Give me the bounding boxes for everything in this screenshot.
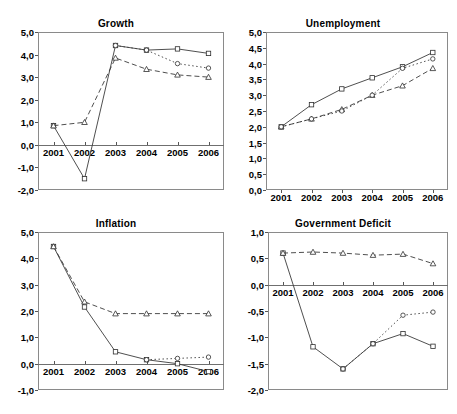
data-point-government-deficit-series-3-circle-dotted-3 [431,310,435,314]
chart-title-growth: Growth [4,18,228,29]
series-layer-unemployment [266,32,448,190]
data-point-unemployment-series-2-triangle-dashed-5 [430,66,436,71]
series-line-growth-series-1-square-solid [54,46,209,179]
y-tick-label-government-deficit-0: -2,0 [232,385,264,396]
data-point-inflation-series-1-square-solid-1 [82,305,86,309]
data-point-government-deficit-series-1-square-solid-5 [431,344,435,348]
data-point-growth-series-3-circle-dotted-3 [206,66,210,70]
y-tick-label-unemployment-4: 2,0 [232,121,262,132]
y-tick-mark-unemployment-0 [263,190,266,191]
y-tick-label-growth-7: 5,0 [4,27,34,38]
x-tick-mark-unemployment-3 [372,190,373,193]
data-point-unemployment-series-1-square-solid-1 [309,103,313,107]
data-point-inflation-series-3-circle-dotted-1 [175,356,179,360]
data-point-unemployment-series-2-triangle-dashed-4 [400,83,406,88]
y-tick-label-unemployment-8: 4,0 [232,58,262,69]
y-tick-label-growth-2: 0,0 [4,139,34,150]
data-point-government-deficit-series-2-triangle-dashed-5 [430,261,436,266]
data-point-unemployment-series-3-circle-dotted-4 [400,66,404,70]
y-tick-label-growth-0: -2,0 [4,185,34,196]
data-point-unemployment-series-3-circle-dotted-2 [340,109,344,113]
data-point-government-deficit-series-3-circle-dotted-2 [401,313,405,317]
chart-title-inflation: Inflation [4,218,228,229]
x-tick-label-unemployment-4: 2005 [392,192,413,203]
series-line-growth-series-2-triangle-dashed [54,58,209,126]
y-tick-label-unemployment-0: 0,0 [232,185,262,196]
x-tick-label-unemployment-0: 2001 [271,192,292,203]
data-point-unemployment-series-3-circle-dotted-1 [309,117,313,121]
y-tick-label-growth-1: -1,0 [4,162,34,173]
chart-panel-inflation: Inflation -1,00,01,02,03,04,05,020012002… [4,218,228,400]
data-point-inflation-series-3-circle-dotted-2 [206,355,210,359]
data-point-government-deficit-series-1-square-solid-1 [311,345,315,349]
plot-area-inflation [38,232,224,390]
series-line-government-deficit-series-1-square-solid [283,253,433,369]
y-tick-label-government-deficit-5: 0,5 [232,253,264,264]
x-tick-mark-unemployment-2 [342,190,343,193]
y-tick-label-growth-4: 2,0 [4,94,34,105]
x-tick-label-unemployment-5: 2006 [422,192,443,203]
data-point-government-deficit-series-3-circle-dotted-1 [371,342,375,346]
x-tick-mark-unemployment-0 [281,190,282,193]
data-point-inflation-series-1-square-solid-2 [113,350,117,354]
data-point-inflation-series-3-circle-dotted-0 [144,358,148,362]
chart-title-unemployment: Unemployment [232,18,454,29]
chart-title-government-deficit: Government Deficit [232,218,454,229]
data-point-unemployment-series-1-square-solid-2 [340,87,344,91]
plot-area-unemployment [266,32,448,190]
y-tick-label-inflation-1: 0,0 [4,358,34,369]
y-tick-label-government-deficit-6: 1,0 [232,227,264,238]
data-point-growth-series-2-triangle-dashed-2 [113,55,119,60]
data-point-government-deficit-series-1-square-solid-4 [401,331,405,335]
x-tick-label-unemployment-1: 2002 [301,192,322,203]
y-tick-mark-inflation-0 [35,390,38,391]
series-layer-inflation [38,232,224,390]
data-point-inflation-series-1-square-solid-4 [175,362,179,366]
y-tick-mark-growth-0 [35,190,38,191]
chart-panel-government-deficit: Government Deficit -2,0-1,5-1,0-0,50,00,… [232,218,454,400]
y-tick-mark-government-deficit-0 [265,390,268,391]
chart-panel-unemployment: Unemployment 0,00,51,01,52,02,53,03,54,0… [232,18,454,200]
data-point-growth-series-2-triangle-dashed-1 [82,120,88,125]
y-tick-label-unemployment-2: 1,0 [232,153,262,164]
data-point-growth-series-3-circle-dotted-1 [144,48,148,52]
data-point-unemployment-series-3-circle-dotted-5 [431,57,435,61]
x-tick-label-unemployment-2: 2003 [331,192,352,203]
data-point-government-deficit-series-3-circle-dotted-0 [341,367,345,371]
data-point-growth-series-3-circle-dotted-0 [113,43,117,47]
y-tick-label-unemployment-5: 2,5 [232,106,262,117]
data-point-growth-series-2-triangle-dashed-3 [144,66,150,71]
y-tick-label-government-deficit-4: 0,0 [232,279,264,290]
series-line-growth-series-3-circle-dotted [116,46,209,69]
data-point-growth-series-1-square-solid-5 [206,51,210,55]
data-point-growth-series-1-square-solid-4 [175,47,179,51]
y-tick-label-growth-6: 4,0 [4,49,34,60]
plot-area-growth [38,32,224,190]
y-tick-label-inflation-5: 4,0 [4,253,34,264]
series-line-unemployment-series-1-square-solid [281,53,433,127]
y-tick-label-government-deficit-1: -1,5 [232,358,264,369]
y-tick-label-inflation-2: 1,0 [4,332,34,343]
figure-sheet: Growth -2,0-1,00,01,02,03,04,05,02001200… [0,0,457,414]
data-point-unemployment-series-3-circle-dotted-0 [279,125,283,129]
data-point-growth-series-3-circle-dotted-2 [175,61,179,65]
y-tick-label-government-deficit-2: -1,0 [232,332,264,343]
series-line-unemployment-series-3-circle-dotted [281,59,433,127]
series-line-inflation-series-2-triangle-dashed [54,247,209,314]
data-point-unemployment-series-3-circle-dotted-3 [370,93,374,97]
data-point-unemployment-series-1-square-solid-3 [370,76,374,80]
y-tick-label-unemployment-6: 3,0 [232,90,262,101]
series-layer-growth [38,32,224,190]
data-point-inflation-series-1-square-solid-5 [206,369,210,373]
data-point-growth-series-1-square-solid-1 [82,177,86,181]
y-tick-label-unemployment-3: 1,5 [232,137,262,148]
x-tick-label-unemployment-3: 2004 [362,192,383,203]
plot-area-government-deficit [268,232,448,390]
y-tick-label-unemployment-1: 0,5 [232,169,262,180]
y-tick-label-government-deficit-3: -0,5 [232,306,264,317]
data-point-inflation-series-2-triangle-dashed-1 [82,299,88,304]
y-tick-label-inflation-4: 3,0 [4,279,34,290]
y-tick-label-unemployment-7: 3,5 [232,74,262,85]
series-line-government-deficit-series-2-triangle-dashed [283,252,433,264]
y-tick-label-growth-5: 3,0 [4,72,34,83]
